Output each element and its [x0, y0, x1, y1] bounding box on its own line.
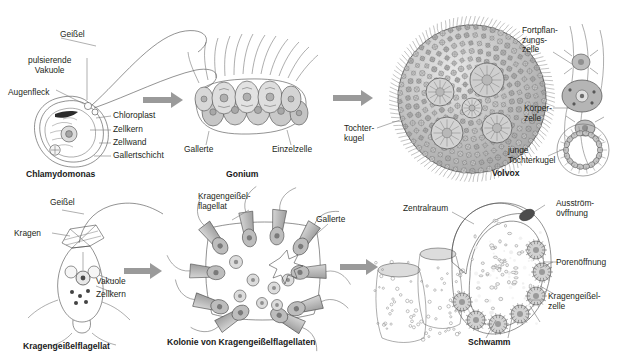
- label-kragen: Kragen: [14, 229, 41, 239]
- arrow-colony-to-sponge: [340, 259, 378, 275]
- label-zellkern-top: Zellkern: [113, 125, 143, 135]
- label-junge-tochterkugel: junge Tochterkugel: [508, 146, 555, 165]
- label-geissel-bottom: Geißel: [50, 198, 75, 208]
- gonium-drawing: [188, 34, 318, 145]
- sponge-drawing: [374, 203, 558, 343]
- colony-drawing: [166, 185, 351, 351]
- label-gallerte-gonium: Gallerte: [184, 145, 213, 155]
- label-kragengeisselflagellat-inline: Kragengeißel- flagellat: [198, 192, 251, 211]
- caption-chlamydomonas: Chlamydomonas: [26, 169, 95, 179]
- figure-canvas: Geißel pulsierende Vakuole Augenfleck Ch…: [0, 0, 639, 361]
- caption-volvox: Volvox: [492, 168, 520, 178]
- volvox-cell-inset: [557, 24, 609, 176]
- arrow-flagellate-to-colony: [124, 263, 162, 279]
- arrow-chlamydomonas-to-gonium: [143, 92, 183, 108]
- caption-gonium: Gonium: [226, 169, 258, 179]
- arrow-gonium-to-volvox: [333, 90, 373, 106]
- label-einzelzelle: Einzelzelle: [272, 145, 312, 155]
- label-chloroplast: Chloroplast: [113, 111, 155, 121]
- label-augenfleck: Augenfleck: [8, 88, 49, 98]
- label-porenoeffnung: Porenöffnung: [556, 258, 606, 268]
- label-zellkern-bottom: Zellkern: [96, 290, 126, 300]
- caption-kragengeisselflagellat: Kragengeißelflagellat: [23, 341, 110, 351]
- label-zellwand: Zellwand: [113, 138, 147, 148]
- label-tochterkugel: Tochter- kugel: [344, 124, 374, 143]
- label-geissel-top: Geißel: [60, 30, 85, 40]
- label-gallerte-kolonie: Gallerte: [316, 215, 345, 225]
- caption-kolonie: Kolonie von Kragengeißelflagellaten: [167, 337, 316, 347]
- label-ausstroemoeffnung: Ausström- övffnung: [556, 199, 594, 218]
- label-koerperzelle: Körper- zelle: [524, 104, 552, 123]
- label-pulsierende-vakuole: pulsierende Vakuole: [28, 56, 71, 75]
- label-kragengeisselzelle: Kragengeißel- zelle: [548, 292, 601, 311]
- caption-schwamm: Schwamm: [468, 337, 511, 347]
- label-gallertschicht: Gallertschicht: [113, 151, 164, 161]
- label-vakuole: Vakuole: [96, 277, 126, 287]
- label-fortpflanzungszelle: Fortpflan- zungs- zelle: [522, 26, 558, 55]
- choanoflagellate-drawing: [28, 203, 163, 346]
- label-zentralraum: Zentralraum: [403, 204, 448, 214]
